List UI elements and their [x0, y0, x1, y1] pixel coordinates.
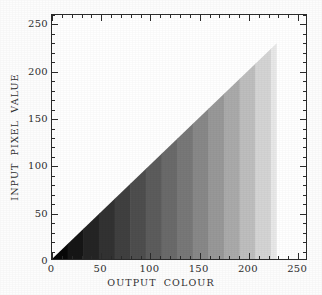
x-tick-top [180, 15, 181, 18]
y-tick [52, 204, 55, 205]
greyscale-band [130, 15, 146, 259]
x-tick-top [229, 15, 230, 18]
x-tick-top [160, 15, 161, 18]
x-tick-label: 0 [48, 263, 55, 274]
y-tick [52, 81, 55, 82]
x-tick-label: 200 [238, 263, 258, 274]
greyscale-band [161, 15, 177, 259]
y-tick [52, 24, 58, 25]
y-tick-right [303, 233, 306, 234]
y-tick-right [300, 24, 306, 25]
x-tick-top [82, 15, 83, 18]
y-tick [52, 15, 55, 16]
data-series-area [52, 15, 306, 259]
y-tick-right [303, 62, 306, 63]
x-tick [200, 253, 201, 259]
y-tick-right [303, 34, 306, 35]
x-tick [219, 256, 220, 259]
x-tick [190, 256, 191, 259]
x-tick-top [121, 15, 122, 18]
x-tick [141, 256, 142, 259]
greyscale-band [99, 15, 115, 259]
x-tick [101, 253, 102, 259]
y-tick [52, 119, 58, 120]
x-tick-top [200, 15, 201, 21]
greyscale-band [146, 15, 162, 259]
y-tick [52, 223, 55, 224]
x-tick [249, 253, 250, 259]
x-tick [91, 256, 92, 259]
y-tick-label: 150 [28, 113, 48, 124]
greyscale-band [208, 15, 224, 259]
x-tick-top [62, 15, 63, 18]
y-tick-right [303, 157, 306, 158]
triangle-gradient-plot [52, 15, 306, 259]
x-tick [180, 256, 181, 259]
greyscale-band [177, 15, 193, 259]
x-tick-top [278, 15, 279, 18]
x-tick-top [72, 15, 73, 18]
greyscale-band [83, 15, 99, 259]
x-tick [278, 256, 279, 259]
y-tick [52, 242, 55, 243]
x-tick-top [259, 15, 260, 18]
y-tick [52, 157, 55, 158]
x-tick [82, 256, 83, 259]
chart-figure: INPUT PIXEL VALUE 0501001502002500501001… [0, 0, 322, 295]
greyscale-band [68, 15, 84, 259]
y-tick-right [303, 15, 306, 16]
y-tick-right [303, 138, 306, 139]
y-tick-right [303, 43, 306, 44]
x-tick-top [141, 15, 142, 18]
y-tick [52, 138, 55, 139]
x-tick-label: 100 [139, 263, 159, 274]
y-tick-right [300, 166, 306, 167]
x-tick-top [131, 15, 132, 18]
y-tick [52, 91, 55, 92]
y-tick [52, 166, 58, 167]
x-tick-top [210, 15, 211, 18]
greyscale-band [224, 15, 240, 259]
x-axis-label: OUTPUT COLOUR [0, 277, 322, 288]
y-tick-right [300, 72, 306, 73]
x-tick-top [239, 15, 240, 18]
x-tick-label: 150 [189, 263, 209, 274]
x-tick-top [150, 15, 151, 21]
y-tick [52, 233, 55, 234]
y-tick-right [303, 81, 306, 82]
x-tick-top [170, 15, 171, 18]
y-tick-right [303, 129, 306, 130]
x-tick [111, 256, 112, 259]
y-tick-right [303, 91, 306, 92]
x-tick [298, 253, 299, 259]
y-tick-right [303, 100, 306, 101]
y-tick [52, 252, 55, 253]
y-tick [52, 62, 55, 63]
y-tick-right [303, 204, 306, 205]
y-tick [52, 72, 58, 73]
x-tick [239, 256, 240, 259]
y-tick-right [303, 110, 306, 111]
x-tick-top [91, 15, 92, 18]
y-tick [52, 214, 58, 215]
y-tick-right [303, 223, 306, 224]
x-tick [259, 256, 260, 259]
y-tick [52, 43, 55, 44]
y-tick-label: 200 [28, 65, 48, 76]
y-tick [52, 147, 55, 148]
y-tick-label: 100 [28, 160, 48, 171]
greyscale-band [240, 15, 256, 259]
x-tick-top [288, 15, 289, 18]
y-tick-right [303, 147, 306, 148]
greyscale-band [115, 15, 131, 259]
x-tick [72, 256, 73, 259]
y-tick-right [303, 53, 306, 54]
y-tick-label: 50 [35, 207, 48, 218]
greyscale-band [193, 15, 209, 259]
x-tick-label: 250 [287, 263, 307, 274]
y-tick-right [300, 214, 306, 215]
y-tick [52, 185, 55, 186]
x-tick [229, 256, 230, 259]
x-tick [150, 253, 151, 259]
y-axis-label: INPUT PIXEL VALUE [9, 73, 20, 200]
